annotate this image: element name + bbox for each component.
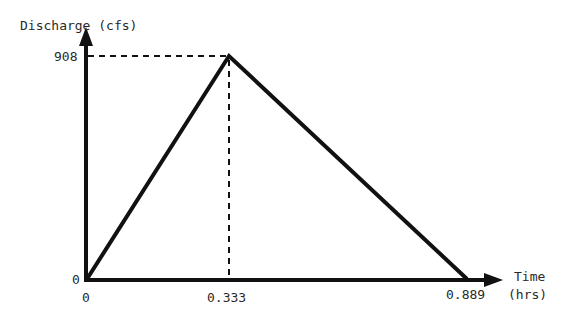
y-axis-title: Discharge (cfs) (20, 18, 137, 33)
x-tick-0.889: 0.889 (446, 287, 485, 302)
x-tick-0.333: 0.333 (207, 290, 246, 305)
x-axis-title-time: Time (514, 269, 545, 284)
x-axis-arrow-icon (484, 273, 503, 287)
y-tick-908: 908 (54, 49, 77, 64)
y-tick-0: 0 (72, 272, 80, 287)
hydrograph-plot (0, 0, 573, 321)
hydrograph-line (87, 56, 467, 279)
x-tick-0: 0 (82, 290, 90, 305)
x-axis-title-units: (hrs) (508, 287, 547, 302)
